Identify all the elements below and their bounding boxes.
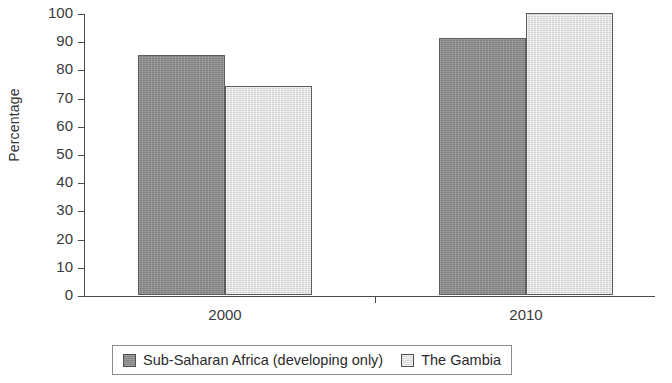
x-axis-label-2010: 2010 [509, 306, 542, 323]
y-axis-tick-label: 100 [48, 4, 73, 21]
dark-gray-swatch-icon [123, 354, 136, 367]
y-axis-tick-label: 40 [56, 173, 73, 190]
bar-2010-series-2 [526, 13, 613, 295]
y-axis-tick-label: 80 [56, 60, 73, 77]
light-gray-swatch-icon [401, 354, 414, 367]
y-axis-tick-label: 90 [56, 32, 73, 49]
y-axis-tick: 80 [78, 70, 84, 71]
legend-item-the-gambia: The Gambia [401, 352, 501, 368]
y-axis-tick: 20 [78, 240, 84, 241]
y-axis-tick-label: 70 [56, 89, 73, 106]
y-axis-tick: 10 [78, 268, 84, 269]
legend-item-sub-saharan-africa: Sub-Saharan Africa (developing only) [123, 352, 383, 368]
bar-2010-series-1 [439, 38, 526, 295]
y-axis-tick-label: 10 [56, 258, 73, 275]
x-axis-line [84, 296, 655, 297]
y-axis-tick: 70 [78, 99, 84, 100]
legend-label-sub-saharan-africa: Sub-Saharan Africa (developing only) [143, 352, 383, 368]
y-axis-tick: 90 [78, 42, 84, 43]
legend-label-the-gambia: The Gambia [421, 352, 501, 368]
y-axis-tick-label: 20 [56, 230, 73, 247]
x-axis-label-2000: 2000 [208, 306, 241, 323]
y-axis-tick: 100 [78, 14, 84, 15]
bar-2000-series-1 [138, 55, 225, 295]
bar-2000-series-2 [225, 86, 312, 295]
y-axis-tick-label: 50 [56, 145, 73, 162]
y-axis-tick-label: 60 [56, 117, 73, 134]
y-axis-tick: 60 [78, 127, 84, 128]
y-axis-tick: 50 [78, 155, 84, 156]
y-axis-tick: 0 [78, 296, 84, 297]
y-axis-tick: 30 [78, 211, 84, 212]
plot-area: 1009080706050403020100 [84, 14, 655, 296]
y-axis-tick: 40 [78, 183, 84, 184]
y-axis-tick-label: 30 [56, 201, 73, 218]
chart-legend: Sub-Saharan Africa (developing only) The… [112, 345, 512, 375]
y-axis-tick-label: 0 [65, 286, 73, 303]
x-axis-group-divider-tick [375, 296, 376, 303]
y-axis-line [84, 14, 85, 297]
bar-chart: Percentage 1009080706050403020100 200020… [0, 0, 672, 383]
y-axis-title: Percentage [6, 75, 22, 175]
